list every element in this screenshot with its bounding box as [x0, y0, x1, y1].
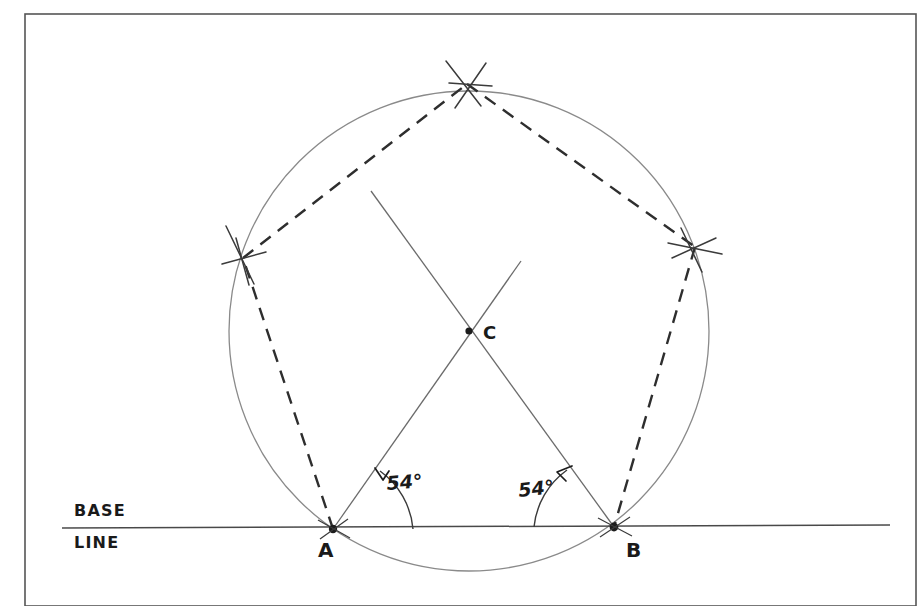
angle-label-b: 54° [517, 475, 555, 501]
base-line-label-top: BASE [74, 501, 126, 520]
base-line [62, 525, 890, 528]
point-label-a: A [318, 538, 334, 562]
chord-right-vertex-b [614, 247, 695, 527]
page-border [25, 14, 916, 606]
base-line-label-bottom: LINE [74, 533, 119, 552]
angle-label-a: 54° [386, 470, 423, 494]
point-c-marker [465, 327, 472, 334]
chord-top-right-vertex [467, 84, 695, 247]
point-label-c: C [483, 322, 496, 343]
point-b-tick-2 [600, 517, 630, 537]
arc-tick-right-vertex-1 [668, 243, 722, 254]
chord-left-vertex-top [243, 84, 467, 258]
construction-ray-a-c [333, 261, 521, 529]
drawing-canvas: 54° 54° A B C BASE LINE [0, 0, 924, 606]
geometric-construction-figure: 54° 54° A B C BASE LINE [0, 0, 924, 606]
arc-tick-left-vertex-3 [236, 238, 249, 285]
point-label-b: B [626, 538, 641, 562]
angle-arrowhead-at-b [557, 466, 572, 481]
